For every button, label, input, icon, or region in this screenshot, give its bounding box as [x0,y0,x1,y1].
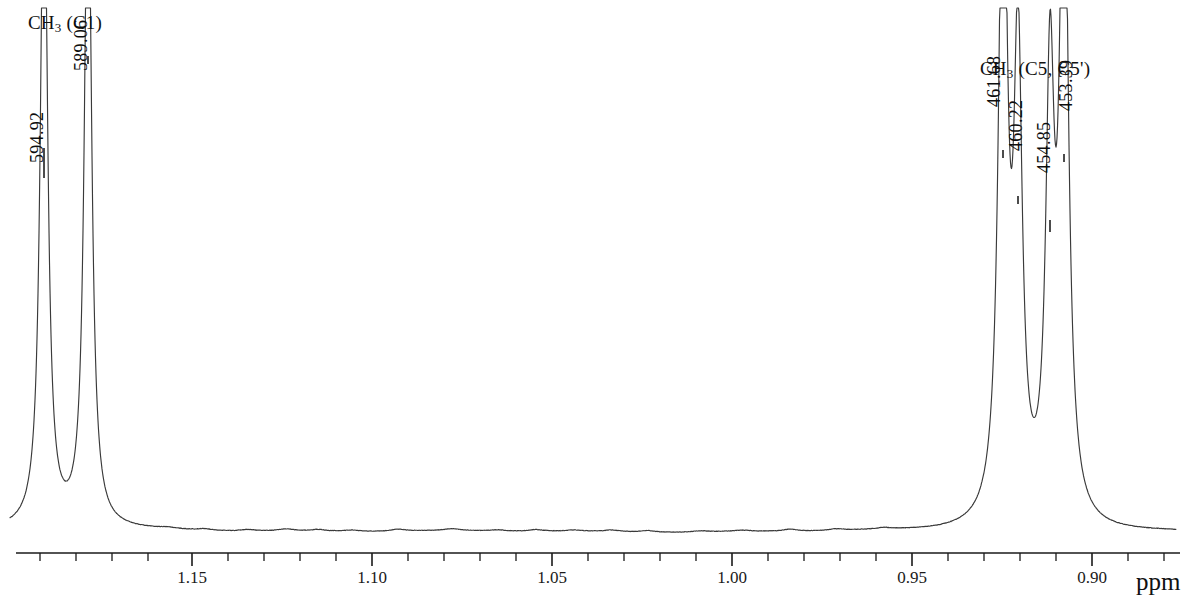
spectrum-canvas [0,0,1192,597]
axis-tick-label: 1.00 [706,568,758,588]
peak-label: 453.39 [1056,60,1077,111]
peak-label: 454.85 [1034,122,1055,173]
nmr-spectrum-figure: CH3 (C1) CH3 (C5, C5') 594.92 589.06 461… [0,0,1192,597]
assignment-suffix: (C5, C5') [1014,58,1091,79]
axis-tick-label: 1.10 [346,568,398,588]
axis-tick-label: 0.90 [1066,568,1118,588]
axis-tick-label: 1.05 [526,568,578,588]
peak-leader-lines [44,56,1064,232]
peak-label: 589.06 [71,20,92,71]
axis-tick-label: 1.15 [166,568,218,588]
ppm-axis [16,553,1180,566]
assignment-subscript: 3 [55,20,62,35]
peak-label: 594.92 [27,112,48,163]
axis-unit-label: ppm [1136,568,1180,596]
peak-label: 461.68 [984,56,1005,107]
peak-label: 460.22 [1006,100,1027,151]
assignment-subscript: 3 [1007,66,1014,81]
axis-tick-label: 0.95 [886,568,938,588]
assignment-prefix: CH [28,12,55,33]
